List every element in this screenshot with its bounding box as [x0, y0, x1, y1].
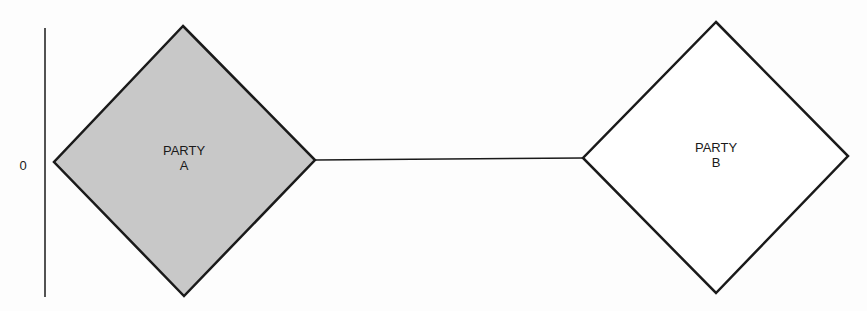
diagram-svg: 0 PARTY A PARTY B: [0, 0, 867, 311]
party-b-label-line2: B: [712, 155, 721, 170]
party-a-label-line2: A: [180, 158, 189, 173]
connector-line: [315, 158, 583, 160]
axis-zero-label: 0: [19, 158, 26, 173]
diagram-canvas: 0 PARTY A PARTY B: [0, 0, 867, 311]
party-b-label-line1: PARTY: [695, 140, 737, 155]
party-a-node[interactable]: PARTY A: [54, 26, 315, 296]
party-b-node[interactable]: PARTY B: [583, 22, 848, 293]
party-a-label-line1: PARTY: [163, 143, 205, 158]
